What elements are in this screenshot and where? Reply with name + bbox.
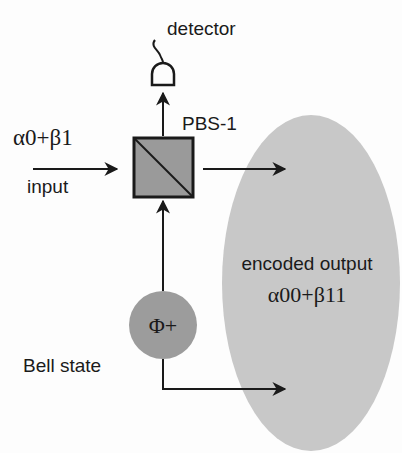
encoded-output-state: α00+β11 <box>268 282 346 307</box>
pbs-label: PBS-1 <box>182 113 237 134</box>
detector-icon <box>152 40 174 85</box>
bell-state-symbol: Φ+ <box>149 313 178 338</box>
encoded-output-label: encoded output <box>241 253 373 274</box>
optical-encoding-diagram: detector PBS-1 α0+β1 input Φ+ Bell state… <box>0 0 402 453</box>
bell-state-label: Bell state <box>23 355 101 376</box>
detector-label: detector <box>167 18 236 39</box>
input-label: input <box>27 176 69 197</box>
pbs-cube-icon <box>134 138 193 197</box>
input-state: α0+β1 <box>13 125 73 150</box>
